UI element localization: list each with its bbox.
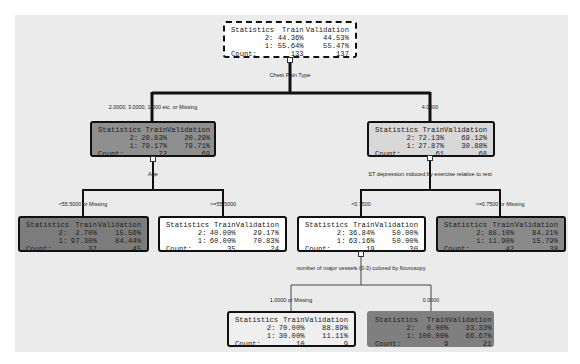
train-class1: 30.00% bbox=[278, 332, 304, 340]
edge-label-left-right: >=55.5000 bbox=[210, 201, 236, 207]
expand-toggle-right[interactable] bbox=[427, 155, 433, 161]
train-count: 42 bbox=[488, 245, 514, 253]
edge-label-rl-left: 1.0000 or Missing bbox=[270, 297, 313, 303]
class1-label: 1: bbox=[235, 332, 278, 340]
train-count: 9 bbox=[418, 340, 448, 348]
header-statistic: Statistics bbox=[444, 221, 488, 229]
train-class1: 97.30% bbox=[70, 237, 97, 245]
class2-label: 2: bbox=[375, 324, 418, 332]
validation-class2: 69.12% bbox=[444, 134, 487, 142]
count-label: Count: bbox=[444, 245, 488, 253]
class1-label: 1: bbox=[375, 142, 418, 150]
edge-label-right: 4.0000 bbox=[422, 104, 439, 110]
header-statistic: Statistics bbox=[26, 221, 70, 229]
edge-label-left-left: <55.5000 or Missing bbox=[59, 201, 108, 207]
edge-label-rl-right: 0.0000 bbox=[423, 297, 440, 303]
validation-class1: 55.47% bbox=[304, 42, 349, 50]
split-variable-left: Age bbox=[148, 171, 158, 177]
header-validation: Validation bbox=[375, 221, 418, 229]
validation-class2: 15.56% bbox=[97, 229, 141, 237]
train-count: 35 bbox=[209, 245, 235, 253]
tree-node-right-right[interactable]: StatisticsTrainValidation 2:88.10%84.21%… bbox=[436, 216, 566, 252]
header-statistic: Statistics bbox=[98, 126, 141, 134]
validation-class2: 20.29% bbox=[167, 134, 210, 142]
tree-node-root[interactable]: StatisticsTrainValidation 2:44.36%44.53%… bbox=[223, 21, 357, 58]
count-label: Count: bbox=[166, 245, 209, 253]
validation-count: 9 bbox=[305, 340, 348, 348]
tree-node-right[interactable]: StatisticsTrainValidation 2:72.13%69.12%… bbox=[367, 121, 495, 157]
train-class2: 88.10% bbox=[488, 229, 514, 237]
expand-toggle-root[interactable] bbox=[287, 57, 293, 63]
train-class1: 79.17% bbox=[141, 142, 167, 150]
header-train: Train bbox=[488, 221, 514, 229]
validation-count: 68 bbox=[444, 150, 487, 158]
expand-toggle-right-left[interactable] bbox=[358, 251, 364, 257]
tree-node-right-left[interactable]: StatisticsTrainValidation 2:36.84%50.00%… bbox=[297, 216, 426, 252]
header-validation: Validation bbox=[236, 221, 279, 229]
validation-class2: 33.33% bbox=[448, 324, 491, 332]
header-statistic: Statistics bbox=[305, 221, 348, 229]
header-train: Train bbox=[348, 221, 374, 229]
validation-count: 45 bbox=[97, 245, 141, 253]
class2-label: 2: bbox=[235, 324, 278, 332]
tree-node-left-left[interactable]: StatisticsTrainValidation 2:2.70%15.56% … bbox=[18, 216, 149, 252]
expand-toggle-left[interactable] bbox=[150, 156, 156, 162]
count-label: Count: bbox=[375, 340, 418, 348]
train-class2: 72.13% bbox=[418, 134, 444, 142]
split-variable-root: Chest Pain Type bbox=[270, 72, 311, 78]
edge-label-right-left: <0.7500 bbox=[351, 201, 371, 207]
class2-label: 2: bbox=[231, 34, 276, 42]
class1-label: 1: bbox=[166, 237, 209, 245]
validation-class1: 11.11% bbox=[305, 332, 348, 340]
validation-class1: 79.71% bbox=[167, 142, 210, 150]
header-validation: Validation bbox=[305, 316, 348, 324]
class1-label: 1: bbox=[98, 142, 141, 150]
count-label: Count: bbox=[235, 340, 278, 348]
validation-count: 69 bbox=[167, 150, 210, 158]
validation-count: 38 bbox=[514, 245, 558, 253]
validation-count: 21 bbox=[448, 340, 491, 348]
train-class2: 44.36% bbox=[276, 34, 303, 42]
header-train: Train bbox=[276, 26, 303, 34]
train-class1: 55.64% bbox=[276, 42, 303, 50]
header-train: Train bbox=[418, 316, 448, 324]
class2-label: 2: bbox=[305, 229, 348, 237]
header-validation: Validation bbox=[304, 26, 349, 34]
header-validation: Validation bbox=[167, 126, 210, 134]
header-statistic: Statistics bbox=[231, 26, 276, 34]
validation-class1: 70.83% bbox=[236, 237, 279, 245]
class2-label: 2: bbox=[375, 134, 418, 142]
count-label: Count: bbox=[26, 245, 70, 253]
train-class2: 2.70% bbox=[70, 229, 97, 237]
split-variable-right: ST depression induced by exercise relati… bbox=[368, 171, 492, 177]
class1-label: 1: bbox=[444, 237, 488, 245]
validation-class2: 44.53% bbox=[304, 34, 349, 42]
tree-node-left[interactable]: StatisticsTrainValidation 2:20.83%20.29%… bbox=[90, 121, 216, 157]
class1-label: 1: bbox=[26, 237, 70, 245]
tree-node-rl-right[interactable]: StatisticsTrainValidation 2:0.00%33.33% … bbox=[367, 311, 494, 347]
train-class1: 63.16% bbox=[348, 237, 374, 245]
validation-count: 30 bbox=[375, 245, 418, 253]
header-statistic: Statistics bbox=[375, 126, 418, 134]
validation-count: 137 bbox=[304, 50, 349, 58]
train-class1: 100.00% bbox=[418, 332, 448, 340]
class2-label: 2: bbox=[26, 229, 70, 237]
train-class2: 0.00% bbox=[418, 324, 448, 332]
validation-class1: 15.79% bbox=[514, 237, 558, 245]
class1-label: 1: bbox=[375, 332, 418, 340]
train-class2: 70.00% bbox=[278, 324, 304, 332]
train-class1: 60.00% bbox=[209, 237, 235, 245]
split-variable-right-left: number of major vessels (0-3) colored by… bbox=[296, 265, 425, 271]
train-class2: 40.00% bbox=[209, 229, 235, 237]
tree-node-left-right[interactable]: StatisticsTrainValidation 2:40.00%29.17%… bbox=[158, 216, 287, 252]
class2-label: 2: bbox=[166, 229, 209, 237]
validation-class2: 29.17% bbox=[236, 229, 279, 237]
validation-class2: 84.21% bbox=[514, 229, 558, 237]
tree-node-rl-left[interactable]: StatisticsTrainValidation 2:70.00%88.89%… bbox=[227, 311, 356, 347]
header-train: Train bbox=[418, 126, 444, 134]
count-label: Count: bbox=[231, 50, 276, 58]
count-label: Count: bbox=[98, 150, 141, 158]
header-validation: Validation bbox=[514, 221, 558, 229]
validation-class1: 66.67% bbox=[448, 332, 491, 340]
edge-label-right-right: >=0.7500 or Missing bbox=[476, 201, 525, 207]
